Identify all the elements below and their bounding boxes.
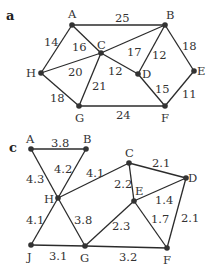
panel-label: c: [9, 140, 17, 155]
node-B: [162, 22, 168, 28]
node-label: J: [26, 250, 32, 264]
node-label: A: [67, 7, 77, 21]
node-label: C: [97, 38, 106, 52]
edge-weight: 15: [155, 82, 170, 96]
node-F: [164, 245, 170, 251]
node-E: [191, 68, 197, 74]
weighted-graphs-diagram: a25141620171221121815111824ABCHDEGF c3.8…: [0, 0, 208, 272]
graph-c: c3.84.34.24.12.12.21.42.11.72.33.84.13.1…: [9, 132, 199, 267]
node-C: [126, 160, 132, 166]
edge-weight: 4.2: [54, 162, 72, 176]
node-G: [82, 243, 88, 249]
edge-weight: 4.1: [86, 166, 104, 180]
node-label: D: [188, 171, 197, 185]
edge-weight: 17: [127, 45, 142, 59]
node-label: H: [44, 192, 54, 206]
edge-weight: 4.1: [26, 213, 44, 227]
node-H: [55, 195, 61, 201]
node-label: G: [75, 111, 84, 125]
edge-weight: 21: [92, 79, 107, 93]
edge-weight: 3.8: [74, 213, 92, 227]
node-label: E: [135, 184, 143, 198]
edge-weight: 18: [182, 39, 197, 53]
edge-weight: 11: [182, 87, 197, 101]
graph-a: a25141620171221121815111824ABCHDEGF: [6, 7, 205, 125]
edge-weight: 16: [72, 40, 87, 54]
edge-weight: 4.3: [26, 172, 44, 186]
edge-weight: 2.1: [181, 211, 199, 225]
edge-G-F: [85, 246, 167, 248]
node-A: [28, 146, 34, 152]
panel-label: a: [6, 8, 15, 23]
node-label: H: [26, 66, 36, 80]
node-E: [131, 198, 137, 204]
node-D: [135, 71, 141, 77]
edge-weight: 18: [50, 91, 65, 105]
node-J: [28, 242, 34, 248]
edge-weight: 3.8: [51, 136, 69, 150]
edge-weight: 1.7: [151, 212, 169, 226]
edge-weight: 1.4: [155, 193, 173, 207]
node-F: [162, 103, 168, 109]
edge-weight: 3.2: [119, 250, 137, 264]
edge-weight: 14: [44, 35, 59, 49]
node-label: F: [161, 111, 169, 125]
node-label: B: [83, 132, 91, 146]
node-H: [38, 70, 44, 76]
edge-weight: 3.1: [49, 249, 67, 263]
edge-J-G: [31, 245, 85, 246]
node-label: D: [142, 67, 151, 81]
edge-weight: 12: [152, 48, 167, 62]
edge-weight: 2.3: [112, 219, 130, 233]
node-G: [76, 103, 82, 109]
node-A: [69, 22, 75, 28]
node-label: B: [166, 8, 174, 22]
node-label: C: [125, 146, 134, 160]
edge-weight: 25: [115, 11, 130, 25]
node-label: G: [80, 251, 89, 265]
edge-weight: 2.1: [152, 156, 170, 170]
edge-weight: 12: [108, 64, 123, 78]
node-B: [83, 146, 89, 152]
node-label: A: [25, 132, 35, 146]
edge-weight: 20: [68, 65, 83, 79]
edge-weight: 2.2: [114, 177, 132, 191]
edge-weight: 24: [116, 108, 131, 122]
node-label: E: [197, 64, 205, 78]
node-label: F: [163, 253, 171, 267]
